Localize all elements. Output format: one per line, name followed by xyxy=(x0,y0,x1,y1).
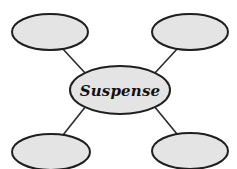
top-right-node[interactable] xyxy=(152,14,228,50)
center-node-label: Suspense xyxy=(80,82,161,100)
top-right-node-shape[interactable] xyxy=(152,14,228,50)
bottom-left-node[interactable] xyxy=(12,134,90,169)
concept-map-canvas: Suspense xyxy=(0,0,237,169)
connector-center-to-bottom-right xyxy=(154,106,177,134)
connector-center-to-top-left xyxy=(62,48,86,74)
connector-center-to-top-right xyxy=(154,48,178,74)
center-node[interactable]: Suspense xyxy=(70,66,170,114)
top-left-node[interactable] xyxy=(12,14,88,50)
bottom-right-node-shape[interactable] xyxy=(152,133,228,169)
bottom-left-node-shape[interactable] xyxy=(12,134,90,169)
connector-center-to-bottom-left xyxy=(63,106,86,135)
bottom-right-node[interactable] xyxy=(152,133,228,169)
top-left-node-shape[interactable] xyxy=(12,14,88,50)
